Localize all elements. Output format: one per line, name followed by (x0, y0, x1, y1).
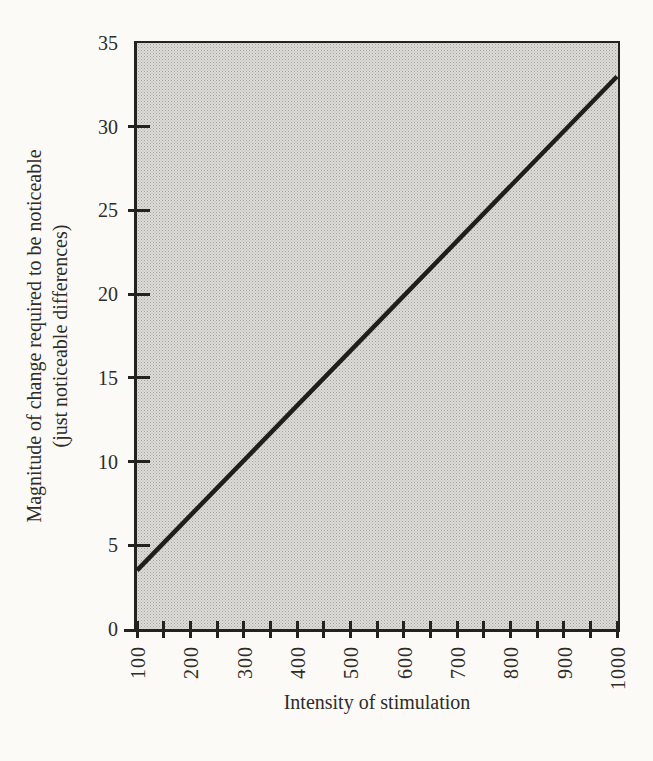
x-tick (456, 621, 459, 638)
weber-law-jnd-figure: 0510152025303510020030040050060070080090… (0, 0, 653, 761)
x-axis-title: Intensity of stimulation (137, 691, 617, 714)
x-minor-tick (162, 621, 165, 638)
y-tick (128, 376, 150, 379)
x-minor-tick (589, 621, 592, 638)
x-tick (402, 621, 405, 638)
x-tick (509, 621, 512, 638)
x-tick (349, 621, 352, 638)
plot-area (134, 41, 620, 632)
x-tick (296, 621, 299, 638)
x-tick (136, 621, 139, 638)
y-tick (128, 209, 150, 212)
x-minor-tick (536, 621, 539, 638)
y-axis-title-line-2: (just noticeable differences) (47, 43, 73, 629)
x-minor-tick (429, 621, 432, 638)
x-tick (616, 621, 619, 638)
y-axis-title-line-1: Magnitude of change required to be notic… (21, 43, 47, 629)
y-tick (128, 125, 150, 128)
x-tick (242, 621, 245, 638)
x-tick (189, 621, 192, 638)
y-axis-title: Magnitude of change required to be notic… (21, 43, 73, 629)
x-tick (562, 621, 565, 638)
x-minor-tick (216, 621, 219, 638)
x-minor-tick (376, 621, 379, 638)
x-minor-tick (269, 621, 272, 638)
x-minor-tick (482, 621, 485, 638)
x-minor-tick (322, 621, 325, 638)
y-tick (128, 460, 150, 463)
y-tick (128, 293, 150, 296)
y-tick (128, 544, 150, 547)
